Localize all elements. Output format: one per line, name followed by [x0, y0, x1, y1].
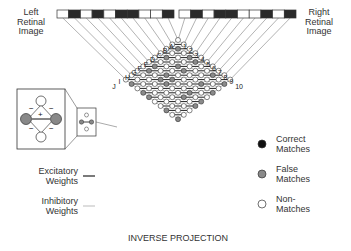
inset-node-bottom	[36, 132, 46, 142]
network-node	[210, 82, 215, 87]
network-node	[152, 99, 157, 104]
left-retina-pixel	[80, 10, 92, 18]
right-retina-pixel	[226, 10, 238, 18]
right-projection-line	[224, 18, 278, 75]
network-node	[187, 108, 192, 113]
network-node	[187, 55, 192, 60]
network-node	[176, 117, 181, 122]
right-projection-line	[190, 18, 209, 49]
network-node	[170, 77, 175, 82]
stereo-network-diagram: ABCDEFGHIJ12345678910+−−−−	[0, 0, 351, 251]
network-node	[181, 86, 186, 91]
right-axis-label: 9	[229, 78, 233, 85]
left-axis-label: G	[131, 69, 136, 76]
right-axis-label: 7	[218, 69, 222, 76]
inset-pointer-line	[96, 122, 117, 127]
left-projection-line	[168, 18, 178, 40]
left-axis-label: D	[150, 56, 155, 63]
network-node	[181, 104, 186, 109]
network-node	[222, 82, 227, 87]
network-node	[193, 60, 198, 65]
network-node	[158, 77, 163, 82]
right-axis-label: 3	[195, 52, 199, 59]
network-node	[187, 82, 192, 87]
network-node	[170, 95, 175, 100]
network-node	[158, 68, 163, 73]
left-retina-pixel	[57, 10, 69, 18]
small-inset-node	[85, 127, 89, 131]
network-node	[205, 77, 210, 82]
left-projection-line	[121, 18, 154, 58]
network-node	[181, 51, 186, 56]
left-retina-pixel	[139, 10, 151, 18]
inset-node-top	[36, 96, 46, 106]
left-axis-label: F	[138, 65, 142, 72]
network-node	[158, 86, 163, 91]
left-projection-line	[75, 18, 132, 75]
left-retina-pixel	[92, 10, 104, 18]
inset-minus-sign: −	[29, 104, 34, 113]
right-axis-label: 5	[206, 61, 210, 68]
right-axis-label: 8	[224, 74, 228, 81]
right-axis-label: 10	[235, 83, 243, 90]
network-node	[141, 90, 146, 95]
inset-zoom-line	[65, 136, 77, 149]
right-retina-pixel	[238, 10, 250, 18]
network-node	[152, 64, 157, 69]
network-node	[158, 95, 163, 100]
right-retina-pixel	[284, 10, 296, 18]
network-node	[147, 77, 152, 82]
network-node	[141, 73, 146, 78]
network-node	[193, 86, 198, 91]
left-retina-pixel	[69, 10, 81, 18]
inset-minus-sign: −	[49, 124, 54, 133]
inset-zoom-line	[65, 89, 77, 108]
right-projection-line	[195, 18, 220, 53]
right-retina-pixel	[179, 10, 191, 18]
right-projection-line	[213, 18, 255, 66]
left-axis-label: J	[112, 83, 116, 90]
network-node	[187, 99, 192, 104]
network-node	[158, 104, 163, 109]
left-projection-line	[86, 18, 137, 71]
network-node	[181, 77, 186, 82]
network-node	[181, 112, 186, 117]
right-retina-pixel	[214, 10, 226, 18]
left-retina-pixel	[116, 10, 128, 18]
network-node	[129, 82, 134, 87]
network-node	[193, 68, 198, 73]
network-node	[176, 99, 181, 104]
left-axis-label: B	[163, 47, 168, 54]
right-axis-label: 2	[189, 47, 193, 54]
network-node	[193, 95, 198, 100]
legend-marker-icon	[258, 200, 266, 208]
network-node	[170, 68, 175, 73]
network-node	[187, 73, 192, 78]
network-node	[170, 104, 175, 109]
network-node	[170, 86, 175, 91]
network-node	[199, 73, 204, 78]
network-node	[152, 73, 157, 78]
network-node	[164, 99, 169, 104]
network-node	[216, 86, 221, 91]
network-node	[199, 90, 204, 95]
network-node	[135, 86, 140, 91]
right-axis-label: 4	[200, 56, 204, 63]
network-node	[141, 82, 146, 87]
network-node	[181, 68, 186, 73]
network-node	[164, 82, 169, 87]
network-node	[216, 77, 221, 82]
network-node	[164, 90, 169, 95]
right-retina-pixel	[191, 10, 203, 18]
inset-minus-sign: −	[49, 104, 54, 113]
network-node	[193, 104, 198, 109]
network-node	[176, 73, 181, 78]
network-node	[176, 90, 181, 95]
left-axis-label: E	[144, 61, 149, 68]
network-node	[147, 86, 152, 91]
network-node	[199, 64, 204, 69]
left-axis-label: I	[119, 78, 121, 85]
network-node	[176, 82, 181, 87]
network-node	[187, 90, 192, 95]
right-projection-line	[230, 18, 290, 80]
